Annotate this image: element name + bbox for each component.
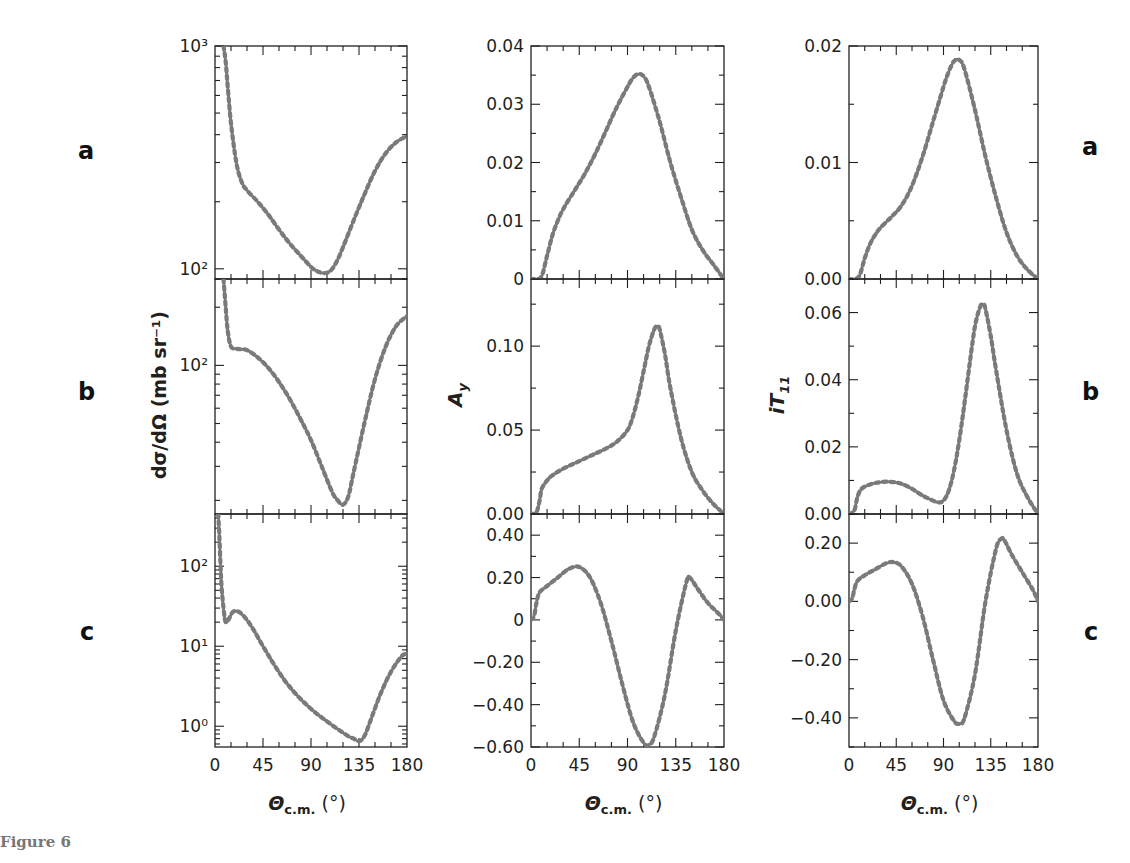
figure: 10²10³10²10⁰10¹10²04590135180Θc.m. (°)00…	[0, 0, 1130, 863]
x-tick-label: 180	[708, 755, 740, 775]
y-tick-label: −0.20	[472, 652, 524, 672]
x-tick-label: 135	[343, 755, 375, 775]
y-tick-label: 0.01	[486, 211, 524, 231]
x-tick-label: 45	[252, 755, 274, 775]
y-tick-label: 10³	[180, 36, 208, 56]
axes-frame	[215, 279, 407, 514]
y-tick-label: 0.00	[804, 269, 842, 289]
y-tick-label: 0	[513, 269, 524, 289]
series-dotted	[224, 279, 408, 505]
panel-ay-a: 00.010.020.030.04	[486, 36, 724, 289]
row-label-right-a: a	[1082, 133, 1098, 161]
series-dotted	[531, 566, 724, 745]
y-tick-label: 10²	[180, 556, 208, 576]
y-tick-label: 10²	[180, 259, 208, 279]
panel-ay-c: −0.60−0.40−0.2000.200.4004590135180Θc.m.…	[472, 514, 740, 817]
y-tick-label: −0.60	[472, 737, 524, 757]
y-tick-label: 0.05	[486, 420, 524, 440]
y-tick-label: 0.03	[486, 94, 524, 114]
panel-it11-c: −0.40−0.200.000.2004590135180Θc.m. (°)	[790, 514, 1054, 817]
y-tick-label: 0.40	[486, 525, 524, 545]
y-tick-label: 0.04	[486, 36, 524, 56]
y-tick-label: −0.20	[790, 650, 842, 670]
series-line	[224, 279, 408, 505]
y-tick-label: 0.20	[486, 568, 524, 588]
y-tick-label: 0.00	[804, 591, 842, 611]
axes-frame	[849, 279, 1038, 514]
series-dotted	[849, 538, 1038, 724]
y-tick-label: 10¹	[180, 636, 208, 656]
y-tick-label: 0.20	[804, 533, 842, 553]
series-dotted	[849, 304, 1038, 514]
x-tick-label: 135	[975, 755, 1007, 775]
y-tick-label: 10²	[180, 355, 208, 375]
panel-dsigma-b: 10²	[180, 279, 407, 514]
x-axis-label: Θc.m. (°)	[268, 792, 346, 817]
plot-canvas: 10²10³10²10⁰10¹10²04590135180Θc.m. (°)00…	[0, 0, 1130, 863]
x-tick-label: 180	[391, 755, 423, 775]
y-tick-label: 0.02	[804, 36, 842, 56]
x-axis-label: Θc.m. (°)	[901, 792, 979, 817]
x-tick-label: 0	[210, 755, 221, 775]
x-tick-label: 45	[568, 755, 590, 775]
y-axis-label-ay: Ay	[443, 383, 470, 409]
series-line	[531, 326, 724, 514]
series-dotted	[218, 514, 407, 741]
y-tick-label: −0.40	[472, 695, 524, 715]
panel-it11-a: 0.000.010.02	[804, 36, 1038, 289]
y-axis-label-it11: iT11	[765, 376, 792, 415]
x-tick-label: 0	[844, 755, 855, 775]
series-line	[849, 59, 1038, 279]
y-tick-label: 0.02	[804, 437, 842, 457]
y-tick-label: 0.04	[804, 370, 842, 390]
series-dotted	[224, 46, 408, 273]
y-tick-label: 0.10	[486, 336, 524, 356]
y-tick-label: −0.40	[790, 708, 842, 728]
row-label-right-b: b	[1082, 378, 1099, 406]
y-tick-label: 0	[513, 610, 524, 630]
series-line	[531, 566, 724, 745]
panel-ay-b: 0.000.050.10	[486, 279, 724, 524]
x-tick-label: 90	[300, 755, 322, 775]
x-tick-label: 90	[617, 755, 639, 775]
y-tick-label: 0.00	[804, 504, 842, 524]
panel-dsigma-a: 10²10³	[180, 36, 407, 279]
row-label-left-c: c	[80, 618, 94, 646]
x-tick-label: 180	[1022, 755, 1054, 775]
row-label-right-c: c	[1084, 618, 1098, 646]
y-tick-label: 0.02	[486, 153, 524, 173]
panel-it11-b: 0.000.020.040.06	[804, 279, 1038, 524]
figure-caption: Figure 6	[0, 833, 71, 851]
axes-frame	[531, 46, 724, 279]
axes-frame	[215, 514, 407, 747]
axes-frame	[531, 514, 724, 747]
y-tick-label: 0.00	[486, 504, 524, 524]
x-tick-label: 0	[526, 755, 537, 775]
y-tick-label: 0.01	[804, 153, 842, 173]
x-tick-label: 90	[933, 755, 955, 775]
row-label-left-a: a	[78, 137, 94, 165]
y-axis-label-cross-section: dσ/dΩ (mb sr⁻¹)	[148, 311, 170, 479]
x-tick-label: 135	[660, 755, 692, 775]
series-line	[218, 514, 407, 741]
y-tick-label: 0.06	[804, 303, 842, 323]
series-dotted	[531, 326, 724, 514]
x-axis-label: Θc.m. (°)	[585, 792, 663, 817]
series-dotted	[531, 74, 724, 279]
series-dotted	[849, 59, 1038, 279]
row-label-left-b: b	[78, 378, 95, 406]
y-tick-label: 10⁰	[180, 716, 209, 736]
panel-dsigma-c: 10⁰10¹10²04590135180Θc.m. (°)	[180, 514, 424, 817]
x-tick-label: 45	[885, 755, 907, 775]
series-line	[531, 74, 724, 279]
